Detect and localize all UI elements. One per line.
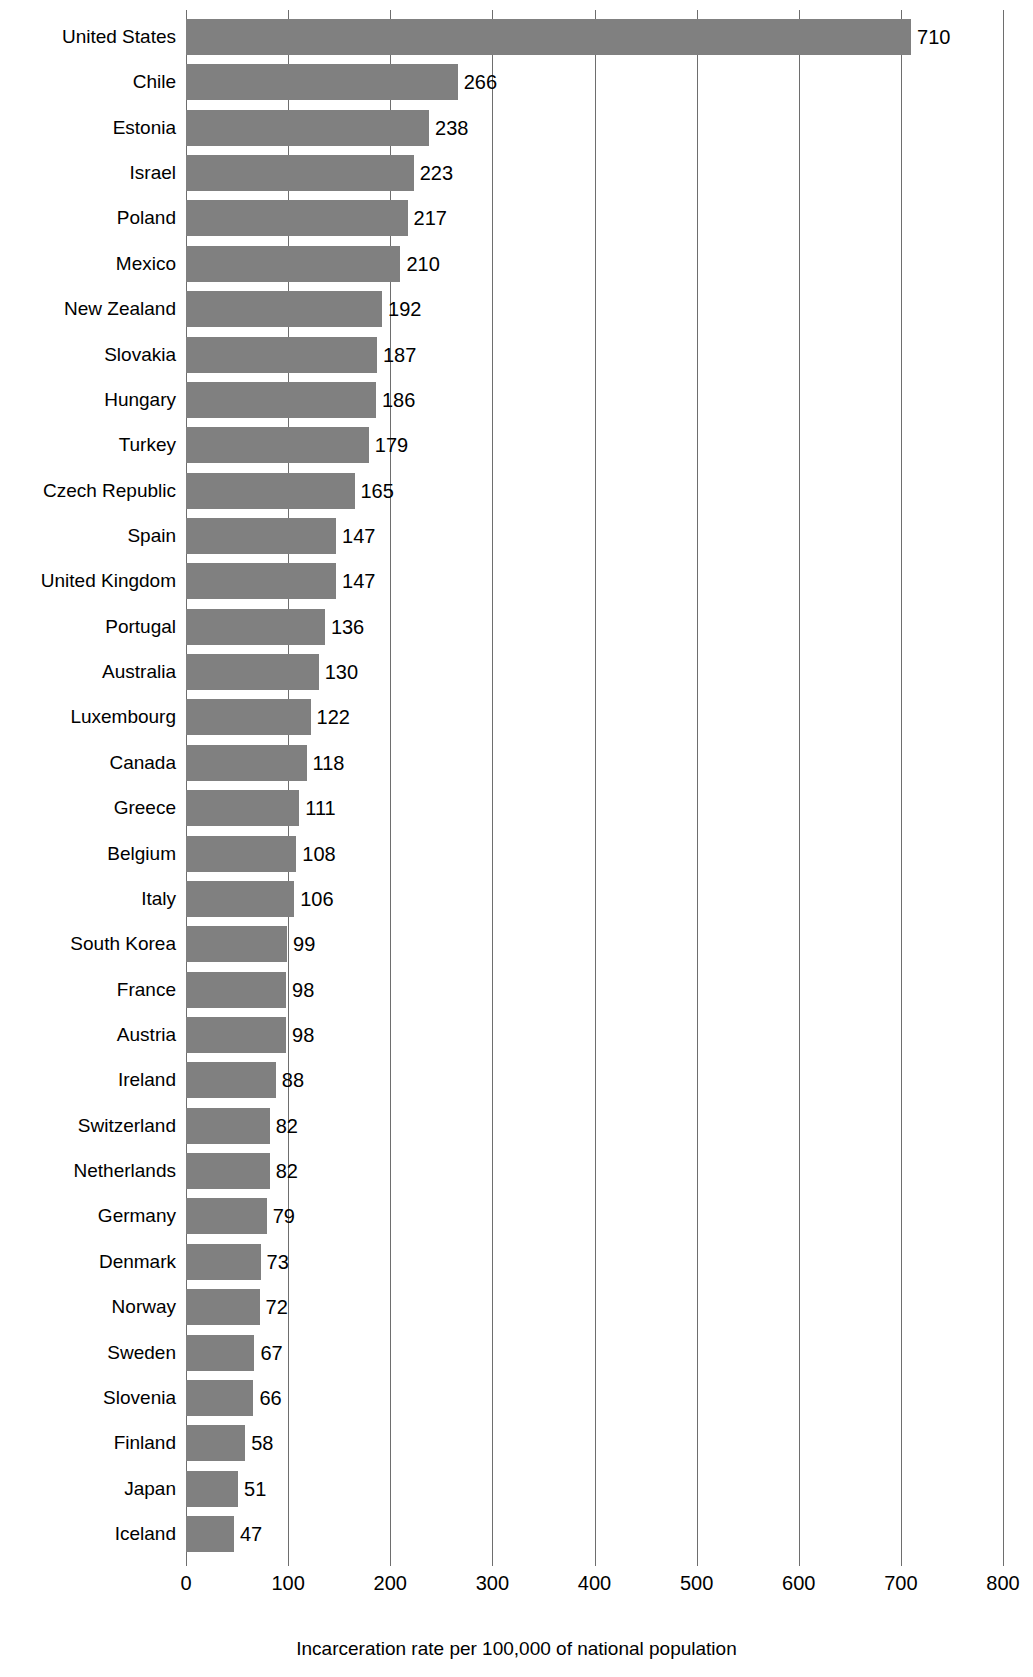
bar-row: 710 [186,16,1003,60]
category-label: United Kingdom [14,563,186,599]
bar [186,609,325,645]
bar-value-label: 266 [458,64,497,100]
category-label: Italy [14,881,186,917]
bar-value-label: 106 [294,881,333,917]
category-label: South Korea [14,926,186,962]
bar-value-label: 66 [253,1380,281,1416]
x-tick-label-800: 800 [963,1572,1033,1595]
category-label: Norway [14,1289,186,1325]
bar-row: 111 [186,787,1003,831]
bar-value-label: 710 [911,19,950,55]
bar [186,1244,261,1280]
bar-value-label: 136 [325,609,364,645]
bar-value-label: 82 [270,1108,298,1144]
bar [186,881,294,917]
bar-row: 51 [186,1468,1003,1512]
category-label: Luxembourg [14,699,186,735]
bar [186,699,311,735]
bar-row: 122 [186,696,1003,740]
bar [186,1108,270,1144]
bar [186,427,369,463]
bar [186,64,458,100]
category-label: Finland [14,1425,186,1461]
bar-row: 223 [186,152,1003,196]
bar [186,1062,276,1098]
bar-value-label: 147 [336,518,375,554]
bar-row: 67 [186,1332,1003,1376]
category-label: Austria [14,1017,186,1053]
category-label: Japan [14,1471,186,1507]
bar-row: 98 [186,969,1003,1013]
bar-value-label: 51 [238,1471,266,1507]
bar-value-label: 130 [319,654,358,690]
category-label: Portugal [14,609,186,645]
category-label: Slovakia [14,337,186,373]
bar-row: 187 [186,334,1003,378]
bar-row: 88 [186,1059,1003,1103]
bar-value-label: 217 [408,200,447,236]
bar-row: 210 [186,243,1003,287]
gridline-800 [1003,10,1004,1566]
bar [186,654,319,690]
bar-chart: Country United StatesChileEstoniaIsraelP… [0,0,1033,1677]
bar-row: 118 [186,742,1003,786]
x-tick-label-300: 300 [452,1572,532,1595]
bar-value-label: 147 [336,563,375,599]
bar-value-label: 118 [307,745,345,781]
bar-row: 179 [186,424,1003,468]
bar [186,200,408,236]
bar [186,518,336,554]
category-label: Mexico [14,246,186,282]
x-axis-title: Incarceration rate per 100,000 of nation… [0,1638,1033,1660]
bar-row: 47 [186,1513,1003,1557]
bar [186,382,376,418]
bar [186,1289,260,1325]
bar [186,291,382,327]
bar [186,926,287,962]
bar-row: 66 [186,1377,1003,1421]
bar-value-label: 73 [261,1244,289,1280]
bar-row: 147 [186,515,1003,559]
category-label: Canada [14,745,186,781]
category-label: France [14,972,186,1008]
bar-value-label: 111 [299,790,335,826]
category-label: Israel [14,155,186,191]
bar [186,1153,270,1189]
category-label: Spain [14,518,186,554]
bar [186,1335,254,1371]
bar-row: 106 [186,878,1003,922]
x-tick-label-400: 400 [555,1572,635,1595]
bar [186,1471,238,1507]
bar-row: 79 [186,1195,1003,1239]
bar-row: 186 [186,379,1003,423]
bar [186,110,429,146]
bar-row: 147 [186,560,1003,604]
bar-value-label: 187 [377,337,416,373]
category-label: Australia [14,654,186,690]
bar-row: 108 [186,833,1003,877]
bar-value-label: 238 [429,110,468,146]
bar-row: 136 [186,606,1003,650]
bar-row: 217 [186,197,1003,241]
bar-value-label: 223 [414,155,453,191]
category-label: Greece [14,790,186,826]
bar [186,563,336,599]
bar [186,836,296,872]
bar-row: 58 [186,1422,1003,1466]
category-label: Slovenia [14,1380,186,1416]
bar-row: 130 [186,651,1003,695]
bar [186,19,911,55]
x-tick-label-0: 0 [146,1572,226,1595]
bar-value-label: 67 [254,1335,282,1371]
bar [186,337,377,373]
bar-value-label: 99 [287,926,315,962]
bar-row: 82 [186,1105,1003,1149]
bar-value-label: 88 [276,1062,304,1098]
bar-row: 165 [186,470,1003,514]
category-label: Belgium [14,836,186,872]
bar [186,745,307,781]
category-label: Iceland [14,1516,186,1552]
x-tick-label-100: 100 [248,1572,328,1595]
bar-row: 238 [186,107,1003,151]
category-labels: United StatesChileEstoniaIsraelPolandMex… [0,10,186,1566]
